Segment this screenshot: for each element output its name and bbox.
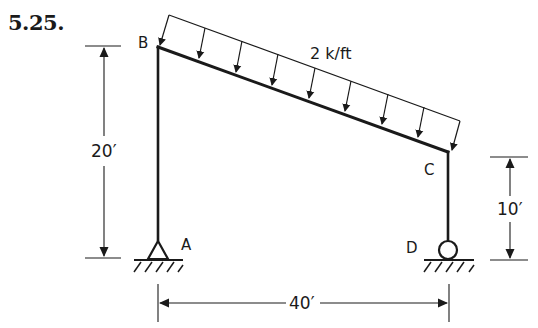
pin-support-a [134,241,183,272]
dimension-left-label: 20′ [91,141,117,161]
beam-bc [158,47,448,152]
node-label-c: C [424,161,434,179]
distributed-load [160,15,460,150]
node-label-b: B [138,34,148,52]
node-label-a: A [181,236,192,254]
roller-support-d [424,241,474,272]
dimension-right-label: 10′ [497,199,523,219]
dimension-span-label: 40′ [289,293,315,313]
load-label: 2 k/ft [310,44,352,63]
frame-diagram: 5.25. 2 k/ft [0,0,538,328]
node-label-d: D [406,239,418,257]
diagram-canvas: 2 k/ft B [0,0,538,328]
frame-members [158,47,448,240]
